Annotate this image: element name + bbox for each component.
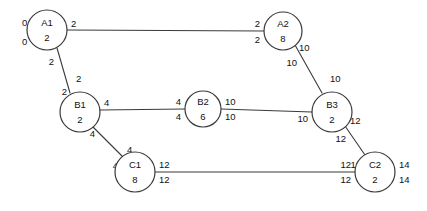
node-c1[interactable]: C18 bbox=[115, 152, 155, 192]
node-a2[interactable]: A28 bbox=[264, 12, 302, 50]
node-value-b3: 2 bbox=[329, 114, 334, 125]
edge-label-c1-c2-1: 12 bbox=[159, 174, 170, 185]
node-name-a1: A1 bbox=[41, 17, 53, 28]
edge-label-a1-b1-0: 2 bbox=[49, 56, 54, 67]
edge-label-a1-a2-1: 2 bbox=[255, 18, 260, 29]
node-value-a1: 2 bbox=[44, 32, 49, 43]
edge-label-a1-b1-2: 2 bbox=[62, 86, 67, 97]
graph-diagram: 22222210101044410101044412121212121212 A… bbox=[0, 0, 427, 211]
node-value-a2: 8 bbox=[280, 33, 285, 44]
node-b3[interactable]: B32 bbox=[312, 92, 352, 132]
node-circle-b1[interactable] bbox=[60, 92, 100, 132]
node-value-b2: 6 bbox=[200, 111, 205, 122]
node-a1[interactable]: A12 bbox=[27, 10, 67, 50]
node-name-c1: C1 bbox=[129, 159, 141, 170]
edge-b1-c1 bbox=[93, 127, 123, 157]
edge-label-b1-b2-0: 4 bbox=[104, 97, 109, 108]
node-b1[interactable]: B12 bbox=[60, 92, 100, 132]
edge-label-a1-a2-2: 2 bbox=[255, 34, 260, 45]
edge-label-a1-b1-1: 2 bbox=[76, 73, 81, 84]
edge-label-b2-b3-1: 10 bbox=[225, 111, 236, 122]
edge-label-b2-b3-2: 10 bbox=[297, 113, 308, 124]
free-label-a1-left-bottom: 0 bbox=[22, 36, 27, 47]
node-name-b3: B3 bbox=[326, 99, 338, 110]
graph-canvas: 22222210101044410101044412121212121212 A… bbox=[0, 0, 427, 211]
edge-label-a2-b3-0: 10 bbox=[299, 42, 310, 53]
node-circle-b3[interactable] bbox=[312, 92, 352, 132]
node-c2[interactable]: C22 bbox=[355, 152, 395, 192]
edge-label-c1-c2-0: 12 bbox=[159, 159, 170, 170]
node-name-b2: B2 bbox=[197, 96, 209, 107]
node-b2[interactable]: B26 bbox=[185, 91, 221, 127]
free-label-c2-right-bottom: 14 bbox=[399, 174, 410, 185]
node-circle-a1[interactable] bbox=[27, 10, 67, 50]
edge-label-b1-b2-2: 4 bbox=[176, 111, 181, 122]
node-name-a2: A2 bbox=[277, 18, 289, 29]
edge-a1-a2 bbox=[67, 30, 264, 31]
free-label-c2-right-top: 14 bbox=[399, 159, 410, 170]
edge-label-a2-b3-1: 10 bbox=[286, 57, 297, 68]
edge-label-b1-b2-1: 4 bbox=[176, 96, 181, 107]
node-value-c1: 8 bbox=[132, 174, 137, 185]
edge-label-c1-c2-2: 12 bbox=[340, 159, 351, 170]
node-circle-c1[interactable] bbox=[115, 152, 155, 192]
edge-label-a1-a2-0: 2 bbox=[71, 18, 76, 29]
node-circle-c2[interactable] bbox=[355, 152, 395, 192]
node-value-b1: 2 bbox=[77, 114, 82, 125]
edge-b3-c2 bbox=[345, 126, 365, 155]
edge-b1-b2 bbox=[100, 109, 185, 110]
edge-label-a2-b3-2: 10 bbox=[330, 73, 341, 84]
edge-label-b2-b3-0: 10 bbox=[225, 96, 236, 107]
edge-label-c1-c2-3: 12 bbox=[340, 174, 351, 185]
node-name-c2: C2 bbox=[369, 159, 381, 170]
edge-label-b3-c2-1: 12 bbox=[335, 133, 346, 144]
node-name-b1: B1 bbox=[74, 99, 86, 110]
free-label-a1-left-top: 0 bbox=[22, 17, 27, 28]
node-value-c2: 2 bbox=[372, 174, 377, 185]
